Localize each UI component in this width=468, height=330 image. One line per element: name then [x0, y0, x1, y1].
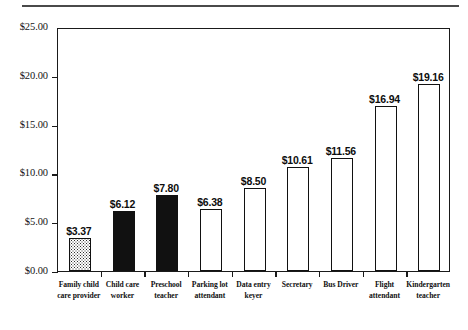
x-axis-tick-mark [188, 272, 189, 277]
top-horizontal-rule [22, 5, 459, 7]
x-axis-tick-mark [275, 272, 276, 277]
y-axis-tick-label: $15.00 [20, 119, 48, 130]
bar-value-label: $6.38 [186, 196, 234, 208]
bar-value-label: $11.56 [317, 145, 365, 157]
x-axis-tick-mark [232, 272, 233, 277]
bar-value-label: $8.50 [230, 175, 278, 187]
x-axis-category-label-line: Bus Driver [317, 280, 365, 291]
bar [156, 195, 178, 271]
x-axis-category-label: Family childcare provider [55, 280, 103, 301]
x-axis-category-label-line: Family child [55, 280, 103, 291]
x-axis-category-label: Preschoolteacher [142, 280, 190, 301]
x-axis-category-label-line: care provider [55, 291, 103, 302]
x-axis-category-label-line: teacher [142, 291, 190, 302]
x-axis-category-label: Kindergartenteacher [404, 280, 452, 301]
x-axis-category-label-line: Secretary [273, 280, 321, 291]
x-axis-category-label: Parking lotattendant [186, 280, 234, 301]
x-axis-tick-mark [144, 272, 145, 277]
y-axis-tick-mark [52, 272, 58, 273]
x-axis-category-label-line: Preschool [142, 280, 190, 291]
x-axis-category-label: Data entrykeyer [230, 280, 278, 301]
bar [113, 211, 135, 271]
x-axis-tick-mark [319, 272, 320, 277]
y-axis-tick-label: $20.00 [20, 70, 48, 81]
x-axis-category-label-line: Kindergarten [404, 280, 452, 291]
bar [331, 158, 353, 271]
x-axis-category-label: Flightattendant [361, 280, 409, 301]
y-axis-tick-label: $10.00 [20, 167, 48, 178]
bar-value-label: $3.37 [55, 225, 103, 237]
x-axis-category-label-line: keyer [230, 291, 278, 302]
chart-page: $0.00$5.00$10.00$15.00$20.00$25.00 $3.37… [0, 0, 468, 330]
bar [375, 106, 397, 271]
y-axis-tick-label: $25.00 [20, 21, 48, 32]
x-axis-category-label-line: Flight [361, 280, 409, 291]
x-axis-category-label-line: Parking lot [186, 280, 234, 291]
bar [200, 209, 222, 271]
x-axis-category-label-line: attendant [186, 291, 234, 302]
bar-value-label: $19.16 [404, 71, 452, 83]
bar-value-label: $10.61 [273, 154, 321, 166]
bar [287, 167, 309, 271]
x-axis-category-label-line: Child care [99, 280, 147, 291]
x-axis-tick-mark [101, 272, 102, 277]
x-axis-category-label-line: teacher [404, 291, 452, 302]
bar-value-label: $6.12 [99, 198, 147, 210]
x-axis-category-label-line: worker [99, 291, 147, 302]
y-axis-tick-label: $5.00 [25, 216, 48, 227]
y-axis-tick-label: $0.00 [25, 265, 48, 276]
x-axis-tick-mark [406, 272, 407, 277]
x-axis-category-label-line: attendant [361, 291, 409, 302]
plot-area [57, 28, 450, 272]
bar [244, 188, 266, 271]
x-axis-category-label: Secretary [273, 280, 321, 291]
x-axis-category-label-line: Data entry [230, 280, 278, 291]
x-axis-category-label: Child careworker [99, 280, 147, 301]
x-axis-tick-mark [363, 272, 364, 277]
bar-value-label: $16.94 [361, 93, 409, 105]
x-axis-category-label: Bus Driver [317, 280, 365, 291]
bar-value-label: $7.80 [142, 182, 190, 194]
bar [69, 238, 91, 271]
bar [418, 84, 440, 271]
